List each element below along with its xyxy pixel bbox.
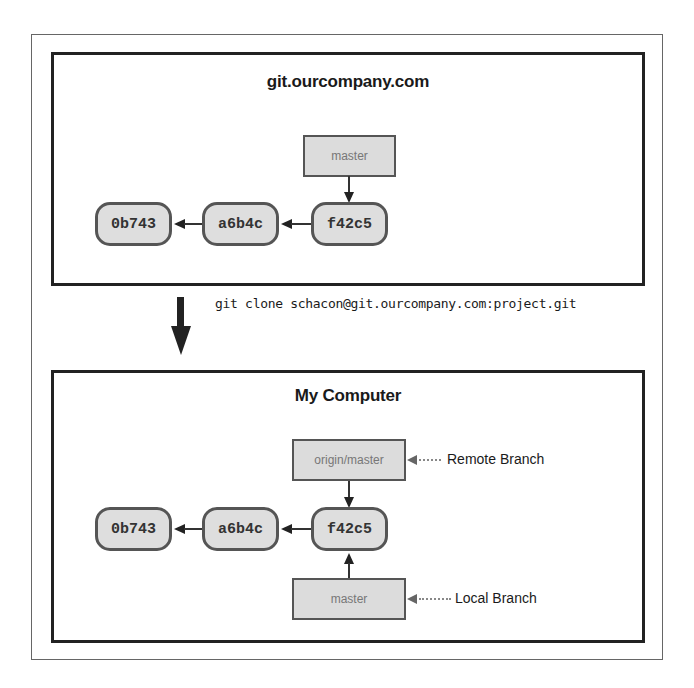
server-commit-f42c5: f42c5 [311,202,388,246]
annotation-arrow-left-icon [407,455,417,465]
local-commit-0b743: 0b743 [95,507,172,551]
local-branch-label: master [331,592,368,606]
commit-hash: 0b743 [111,216,156,233]
remote-branch-pointer-line [348,481,350,498]
commit-hash: f42c5 [327,521,372,538]
parent-link-line [184,223,202,225]
parent-link-line [184,528,202,530]
commit-hash: a6b4c [218,216,263,233]
local-branch-master: master [292,578,406,620]
server-commit-a6b4c: a6b4c [202,202,279,246]
parent-link-line [291,528,311,530]
remote-branch-origin-master: origin/master [292,439,406,481]
server-master-branch-label: master [331,149,368,163]
local-branch-annotation: Local Branch [455,590,537,606]
remote-branch-annotation: Remote Branch [447,451,544,467]
remote-branch-label: origin/master [314,453,383,467]
commit-hash: 0b743 [111,521,156,538]
server-master-pointer-line [348,176,350,193]
server-panel-title: git.ourcompany.com [54,72,642,92]
annotation-dotted-line [419,459,441,461]
clone-arrow-down-icon [171,326,191,355]
local-branch-pointer-line [348,563,350,578]
clone-arrow-shaft [177,297,184,329]
parent-link-line [291,223,311,225]
local-panel-title: My Computer [54,386,642,406]
commit-hash: a6b4c [218,521,263,538]
commit-hash: f42c5 [327,216,372,233]
clone-command: git clone schacon@git.ourcompany.com:pro… [215,296,576,311]
annotation-dotted-line [419,598,451,600]
server-commit-0b743: 0b743 [95,202,172,246]
server-master-branch: master [303,135,396,177]
local-commit-f42c5: f42c5 [311,507,388,551]
local-commit-a6b4c: a6b4c [202,507,279,551]
annotation-arrow-left-icon [407,594,417,604]
